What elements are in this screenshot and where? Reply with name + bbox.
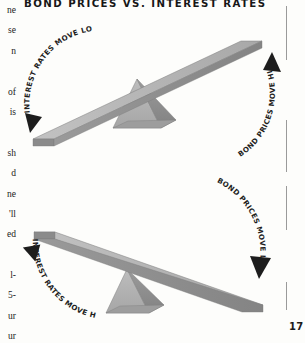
body-text-fragment: is bbox=[0, 102, 17, 122]
seesaw-bottom: INTEREST RATES MOVE HIGHER BOND PRICES M… bbox=[0, 0, 271, 320]
body-text-fragment: ed bbox=[0, 224, 17, 244]
page-number: 17 bbox=[289, 321, 304, 332]
seesaw-top: INTEREST RATES MOVE LOWER BOND PRICES MO… bbox=[0, 0, 281, 159]
printed-page: ne se n of is sh d ne 'll ed l- 5- ur ur… bbox=[0, 0, 305, 343]
plank-top bbox=[33, 41, 262, 146]
body-text-fragment: n bbox=[0, 41, 17, 61]
body-text-fragment: 5- bbox=[0, 285, 17, 305]
body-text-fragment: ne bbox=[0, 0, 17, 20]
body-text-spacer bbox=[0, 245, 17, 265]
body-text-fragment: 'll bbox=[0, 204, 17, 224]
seesaw-bottom-right-label: BOND PRICES MOVE LOWER bbox=[0, 0, 268, 260]
page-title: BOND PRICES VS. INTEREST RATES bbox=[24, 0, 267, 9]
fulcrum-top bbox=[113, 79, 176, 128]
fulcrum-bottom bbox=[106, 269, 164, 313]
body-text-spacer bbox=[0, 61, 17, 81]
body-text-fragment: sh bbox=[0, 143, 17, 163]
body-text-fragment: se bbox=[0, 20, 17, 40]
margin-rule bbox=[286, 6, 287, 60]
margin-rule bbox=[286, 186, 287, 230]
arrow-down-icon bbox=[250, 256, 271, 279]
body-text-fragment: of bbox=[0, 82, 17, 102]
seesaw-top-right-label: BOND PRICES MOVE HIGHER bbox=[0, 0, 277, 159]
arrow-up-icon bbox=[263, 52, 281, 72]
body-text-fragment: d bbox=[0, 163, 17, 183]
arrow-up-icon bbox=[23, 240, 46, 264]
body-text-fragment: ur bbox=[0, 326, 17, 343]
arrow-down-icon bbox=[25, 113, 42, 133]
body-text-fragment: l- bbox=[0, 265, 17, 285]
body-text-fragment: ne bbox=[0, 184, 17, 204]
margin-rule bbox=[286, 282, 287, 310]
margin-rule bbox=[286, 120, 287, 172]
body-text-column: ne se n of is sh d ne 'll ed l- 5- ur ur bbox=[0, 0, 17, 343]
body-text-spacer bbox=[0, 122, 17, 142]
body-text-fragment: ur bbox=[0, 306, 17, 326]
plank-bottom bbox=[34, 232, 263, 312]
seesaw-illustrations: INTEREST RATES MOVE LOWER BOND PRICES MO… bbox=[0, 0, 305, 343]
